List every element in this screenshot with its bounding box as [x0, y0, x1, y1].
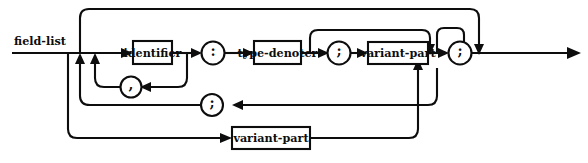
node-type-denoter: type-denoter	[238, 41, 319, 64]
node-semicolon-tail-label: ;	[457, 43, 462, 59]
node-semicolon-mid-label: ;	[209, 95, 214, 111]
railroad-svg: identifier : type-denoter , ; ;	[0, 0, 588, 163]
railroad-diagram: identifier : type-denoter , ; ;	[0, 0, 588, 163]
node-variant-part-top-label: variant-part	[359, 46, 436, 60]
node-identifier-label: identifier	[124, 46, 183, 60]
node-variant-part-top: variant-part	[359, 42, 436, 64]
node-semicolon-mid: ;	[201, 94, 223, 116]
output-line	[471, 47, 581, 59]
node-colon-1-label: :	[210, 43, 215, 59]
node-semicolon-pre-variant: ;	[328, 42, 351, 65]
node-comma: ,	[121, 76, 142, 98]
entry-label: field-list	[14, 34, 67, 48]
node-variant-part-bottom-label: variant-part	[232, 131, 309, 145]
entry-line	[12, 48, 133, 58]
node-semicolon-pre-variant-label: ;	[336, 43, 341, 59]
node-identifier: identifier	[124, 41, 183, 64]
node-semicolon-tail: ;	[449, 42, 472, 65]
node-comma-label: ,	[129, 76, 134, 92]
node-type-denoter-label: type-denoter	[238, 46, 319, 60]
node-variant-part-bottom: variant-part	[232, 127, 310, 149]
node-colon-1: :	[202, 42, 225, 65]
